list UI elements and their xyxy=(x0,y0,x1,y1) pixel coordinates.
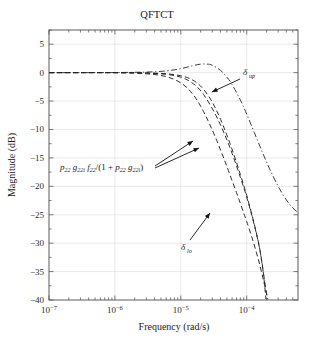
page-title: QFTCT xyxy=(140,9,174,20)
y-tick-label-5: −20 xyxy=(30,181,45,191)
y-tick-label-6: −25 xyxy=(30,210,45,220)
y-tick-label-1: 0 xyxy=(40,68,45,78)
y-tick-label-8: −35 xyxy=(30,267,45,277)
transfer-function-annotation: p22 g22i f22/(1 + p22 g22i) xyxy=(59,162,143,173)
x-axis-title: Frequency (rad/s) xyxy=(139,321,210,333)
y-tick-label-3: −10 xyxy=(30,124,45,134)
transfer-function-formula: p22 g22i f22/(1 + p22 g22i) xyxy=(59,162,143,173)
chart-figure: QFTCT 10−710−610−510−4 50−5−10−15−20−25−… xyxy=(0,0,315,338)
y-tick-label-0: 5 xyxy=(40,39,45,49)
delta-lo-subscript: lo xyxy=(187,248,192,254)
y-tick-label-9: −40 xyxy=(30,295,45,305)
y-tick-label-7: −30 xyxy=(30,238,45,248)
y-tick-label-4: −15 xyxy=(30,153,45,163)
qftct-bode-magnitude-plot: QFTCT 10−710−610−510−4 50−5−10−15−20−25−… xyxy=(0,0,315,338)
y-tick-label-2: −5 xyxy=(34,96,44,106)
y-axis-title: Magnitude (dB) xyxy=(6,133,18,197)
delta-up-subscript: up xyxy=(249,73,255,79)
